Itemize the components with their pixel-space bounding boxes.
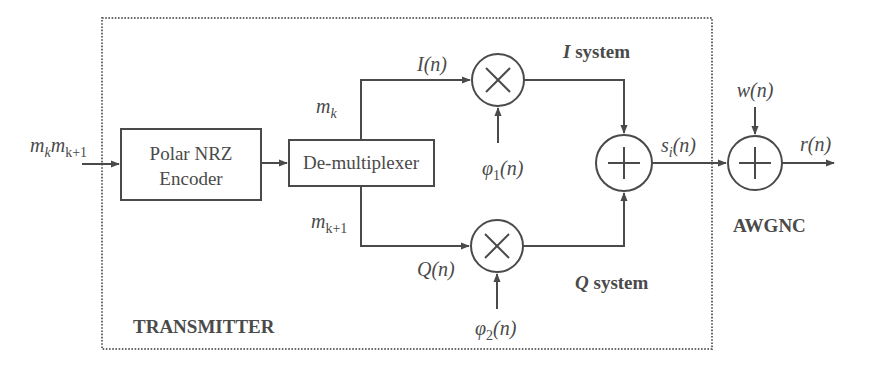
mk1-label: mk+1 [311,210,347,236]
phi2-label: φ2(n) [475,317,517,343]
polar-nrz-encoder-block [121,129,261,200]
encoder-label-line2: Encoder [159,168,223,189]
encoder-label-line1: Polar NRZ [150,143,233,164]
phi1-label: φ1(n) [482,157,524,183]
qpsk-block-diagram: mkmk+1 Polar NRZ Encoder De-multiplexer … [0,0,870,365]
multiplier-i [472,54,524,106]
awgnc-label: AWGNC [733,215,806,236]
q-system-label: Q system [575,272,649,293]
q-to-adder-line [523,193,624,246]
transmitter-label: TRANSMITTER [133,316,275,337]
si-label: si(n) [661,134,696,160]
multiplier-q [471,220,523,272]
demux-label: De-multiplexer [303,152,420,173]
input-label: mkmk+1 [30,134,87,160]
adder-awgn [728,136,782,190]
wn-label: w(n) [737,79,774,102]
i-to-adder-line [524,80,624,133]
in-label: I(n) [416,53,447,76]
qn-label: Q(n) [417,258,455,281]
q-branch-line [361,186,469,246]
i-system-label: I system [562,41,630,62]
rn-label: r(n) [800,133,831,156]
i-branch-line [361,80,470,140]
adder-transmitter [596,135,652,191]
mk-label: mk [316,95,337,121]
